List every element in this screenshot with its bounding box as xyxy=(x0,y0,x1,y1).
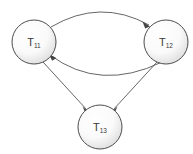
edge-t12-t13-line xyxy=(113,62,157,110)
node-t12-label-subscript: 12 xyxy=(166,42,174,49)
diagram-canvas: T11 T12 T13 xyxy=(0,0,193,154)
directed-graph-svg: T11 T12 T13 xyxy=(0,0,193,154)
node-t12[interactable]: T12 xyxy=(144,20,188,64)
node-t13[interactable]: T13 xyxy=(78,105,122,149)
edge-t12-to-t11 xyxy=(49,54,163,76)
edge-t11-to-t12 xyxy=(51,12,150,29)
node-t11[interactable]: T11 xyxy=(12,20,56,64)
node-t11-label-subscript: 11 xyxy=(34,42,41,49)
edge-t11-t13-line xyxy=(43,62,87,110)
edge-t12-to-t13 xyxy=(111,62,157,113)
edge-layer xyxy=(43,12,162,113)
node-t13-label-subscript: 13 xyxy=(100,127,108,134)
edge-t11-to-t13 xyxy=(43,62,89,113)
node-layer: T11 T12 T13 xyxy=(12,20,188,149)
edge-t12-t11-curve xyxy=(50,55,162,75)
edge-t11-t12-curve xyxy=(51,12,149,27)
